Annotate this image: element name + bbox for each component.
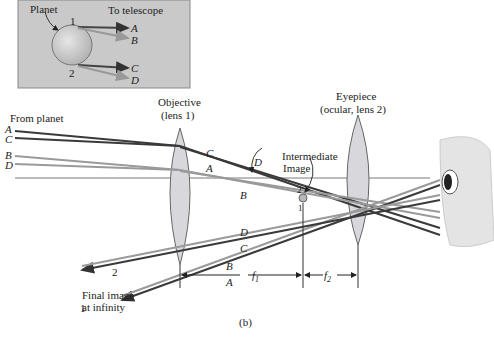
inset-panel: Planet To telescope 1 2 A B C D [18,0,190,88]
eye-illustration [440,137,494,247]
svg-text:D: D [253,156,262,168]
intermediate-label: Intermediate [282,150,338,162]
svg-text:C: C [5,133,13,145]
planet-circle [52,25,92,65]
svg-text:C: C [206,147,214,159]
intermediate-sub-label: Image [283,162,311,174]
svg-text:1: 1 [298,203,303,213]
from-planet-label: From planet [10,112,63,124]
svg-text:2: 2 [297,185,302,195]
svg-text:D: D [4,159,13,171]
svg-text:2: 2 [112,266,118,278]
objective-sub-label: (lens 1) [161,109,195,122]
svg-text:D: D [130,74,139,86]
svg-text:B: B [131,34,138,46]
svg-text:A: A [225,276,233,288]
svg-text:C: C [131,62,139,74]
to-telescope-label: To telescope [108,4,163,16]
incoming-rays [15,131,180,170]
svg-text:B: B [240,189,247,201]
eyepiece-lens [347,115,369,245]
telescope-diagram: Planet To telescope 1 2 A B C D [0,0,494,337]
f2-label: f2 [324,269,331,284]
final-image-sub-label: at infinity [82,301,126,313]
svg-text:B: B [226,260,233,272]
output-rays [82,180,440,300]
eyepiece-label: Eyepiece [336,90,376,102]
intermediate-image-point [299,194,307,202]
f1-label: f1 [252,269,259,284]
svg-text:A: A [130,22,138,34]
planet-label: Planet [30,3,58,15]
inset-point-2: 2 [69,67,75,79]
svg-text:A: A [205,162,213,174]
eyepiece-sub-label: (ocular, lens 2) [320,103,386,116]
objective-label: Objective [158,96,201,108]
svg-text:D: D [239,226,248,238]
final-image-label: Final image [82,289,134,301]
inset-point-1: 1 [70,15,76,27]
svg-text:C: C [240,242,248,254]
figure-caption: (b) [239,316,252,329]
